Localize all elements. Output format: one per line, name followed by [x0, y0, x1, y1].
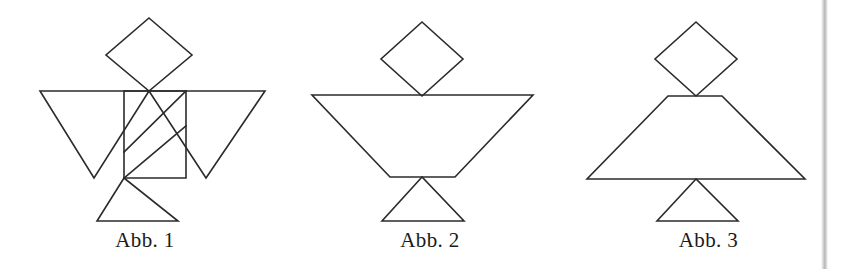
fig3-upright-trapezoid: [587, 96, 805, 179]
fig2-base-triangle: [382, 177, 464, 221]
fig1-base-triangle: [97, 178, 178, 221]
fig3-base-triangle: [657, 179, 738, 221]
scan-artifact-band: [821, 0, 828, 269]
figure-2-block: Abb. 2: [290, 0, 570, 269]
fig1-left-wing-triangle: [40, 91, 149, 178]
fig1-square-diagonal-lower: [124, 126, 186, 178]
fig3-diamond-shape: [655, 22, 737, 96]
fig1-right-wing-triangle: [149, 91, 265, 178]
figure-1-block: Abb. 1: [0, 0, 290, 269]
figure-plate: Abb. 1 Abb. 2 Abb. 3: [0, 0, 847, 269]
figure-1-drawing: [0, 0, 290, 230]
figure-2-caption: Abb. 2: [290, 228, 570, 253]
figure-3-drawing: [570, 0, 847, 230]
fig2-diamond-shape: [381, 22, 463, 96]
figure-3-caption: Abb. 3: [570, 228, 847, 253]
fig1-diamond-shape: [106, 18, 192, 91]
figure-1-caption: Abb. 1: [0, 228, 290, 253]
figure-3-block: Abb. 3: [570, 0, 847, 269]
fig2-inverted-trapezoid: [312, 95, 533, 177]
figure-2-drawing: [290, 0, 570, 230]
